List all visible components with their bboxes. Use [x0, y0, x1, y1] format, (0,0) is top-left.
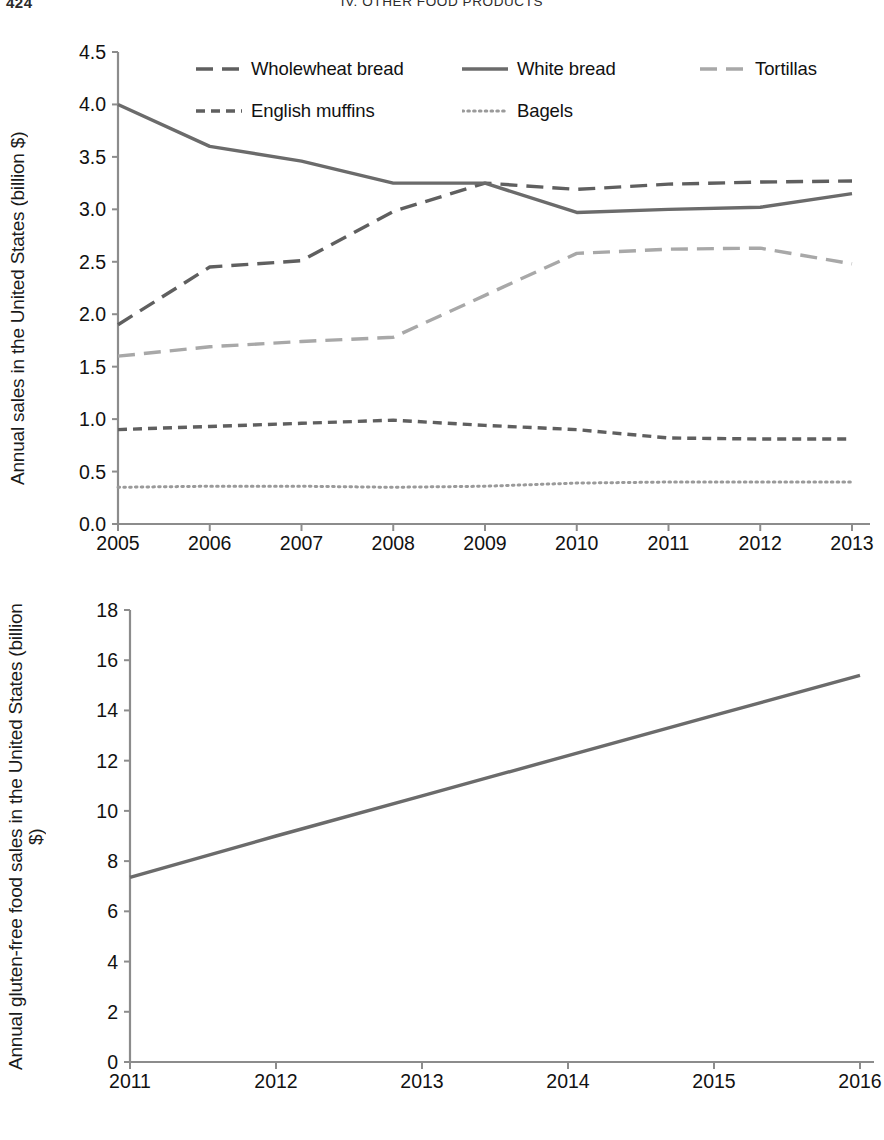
chart2-plot-area: [0, 592, 884, 1140]
legend-line-swatch: [462, 63, 508, 75]
legend-label: Wholewheat bread: [251, 58, 404, 80]
series-line-gluten-free-food-sales: [130, 675, 860, 877]
legend-item-tortillas: Tortillas: [700, 58, 817, 80]
legend-line-swatch: [196, 105, 242, 117]
chart-gluten-free-sales: Annual gluten-free food sales in the Uni…: [0, 592, 884, 1140]
legend-item-bagels: Bagels: [462, 100, 573, 122]
legend-label: Bagels: [517, 100, 573, 122]
legend-line-swatch: [700, 63, 746, 75]
series-line-wholewheat-bread: [118, 181, 852, 325]
legend-item-english-muffins: English muffins: [196, 100, 375, 122]
series-line-tortillas: [118, 248, 852, 356]
legend-item-wholewheat-bread: Wholewheat bread: [196, 58, 404, 80]
running-header: 424 IV. OTHER FOOD PRODUCTS: [0, 0, 884, 12]
legend-line-swatch: [462, 105, 508, 117]
series-line-bagels: [118, 482, 852, 487]
legend-label: White bread: [517, 58, 616, 80]
series-line-english-muffins: [118, 420, 852, 439]
legend-line-swatch: [196, 63, 242, 75]
legend-item-white-bread: White bread: [462, 58, 616, 80]
chart-bread-sales: Annual sales in the United States (billi…: [0, 28, 884, 588]
legend-label: Tortillas: [755, 58, 817, 80]
page: 424 IV. OTHER FOOD PRODUCTS Annual sales…: [0, 0, 884, 1140]
section-title: IV. OTHER FOOD PRODUCTS: [0, 0, 884, 9]
chart1-legend: Wholewheat breadWhite breadTortillasEngl…: [0, 28, 884, 118]
legend-label: English muffins: [251, 100, 375, 122]
